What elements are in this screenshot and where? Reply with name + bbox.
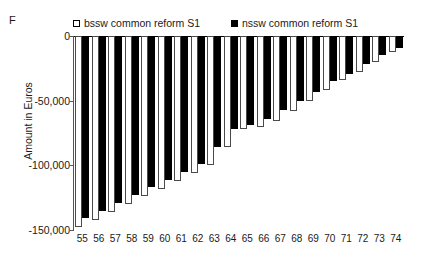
filled-square-icon — [231, 20, 238, 27]
x-tick-label: 58 — [124, 233, 141, 245]
bar-group — [125, 36, 139, 230]
legend-label-bssw: bssw common reform S1 — [84, 17, 200, 29]
bar-group — [356, 36, 370, 230]
x-tick-label: 70 — [322, 233, 339, 245]
chart-legend: bssw common reform S1 nssw common reform… — [73, 17, 403, 31]
x-tick-label: 69 — [305, 233, 322, 245]
bar-group — [141, 36, 155, 230]
x-tick-label: 60 — [157, 233, 174, 245]
bar-bssw-55 — [75, 36, 82, 227]
x-tick-label: 66 — [256, 233, 273, 245]
bar-nssw-72 — [363, 36, 370, 64]
x-tick-label: 61 — [173, 233, 190, 245]
bar-nssw-57 — [115, 36, 122, 203]
bar-group — [273, 36, 287, 230]
x-axis-ticks: 5556575859606162636465666768697071727374 — [74, 233, 404, 247]
bar-bssw-73 — [372, 36, 379, 62]
x-tick-label: 74 — [388, 233, 405, 245]
legend-entry-nssw: nssw common reform S1 — [231, 17, 358, 29]
bar-group — [323, 36, 337, 230]
bar-group — [92, 36, 106, 230]
bar-group — [339, 36, 353, 230]
x-tick-label: 71 — [338, 233, 355, 245]
bar-bssw-62 — [191, 36, 198, 173]
y-tick-label: -100,000 — [29, 159, 70, 171]
bar-nssw-74 — [396, 36, 403, 48]
bar-nssw-69 — [313, 36, 320, 92]
bar-group — [372, 36, 386, 230]
bar-group — [191, 36, 205, 230]
bar-bssw-64 — [224, 36, 231, 147]
bar-nssw-73 — [379, 36, 386, 55]
bar-nssw-66 — [264, 36, 271, 119]
bar-group — [108, 36, 122, 230]
chart-figure: F bssw common reform S1 nssw common refo… — [0, 0, 422, 263]
bar-bssw-65 — [240, 36, 247, 129]
bar-group — [207, 36, 221, 230]
x-tick-label: 67 — [272, 233, 289, 245]
bar-series-container — [74, 36, 404, 230]
bar-bssw-58 — [125, 36, 132, 204]
bar-nssw-56 — [99, 36, 106, 211]
x-tick-label: 73 — [371, 233, 388, 245]
panel-letter: F — [9, 14, 16, 26]
bar-nssw-58 — [132, 36, 139, 195]
bar-group — [75, 36, 89, 230]
bar-nssw-59 — [148, 36, 155, 187]
bar-group — [240, 36, 254, 230]
bar-nssw-68 — [297, 36, 304, 101]
x-tick-label: 55 — [74, 233, 91, 245]
bar-bssw-69 — [306, 36, 313, 101]
x-tick-label: 72 — [355, 233, 372, 245]
bar-bssw-66 — [257, 36, 264, 127]
bar-nssw-67 — [280, 36, 287, 110]
bar-bssw-59 — [141, 36, 148, 196]
x-tick-label: 59 — [140, 233, 157, 245]
x-tick-label: 64 — [223, 233, 240, 245]
y-tick-mark — [70, 230, 74, 231]
bar-bssw-70 — [323, 36, 330, 90]
bar-bssw-71 — [339, 36, 346, 80]
bar-bssw-56 — [92, 36, 99, 220]
bar-nssw-71 — [346, 36, 353, 74]
x-tick-label: 65 — [239, 233, 256, 245]
bar-group — [389, 36, 403, 230]
bar-nssw-65 — [247, 36, 254, 125]
bar-nssw-61 — [181, 36, 188, 172]
bar-bssw-57 — [108, 36, 115, 212]
bar-bssw-74 — [389, 36, 396, 52]
bar-nssw-55 — [82, 36, 89, 218]
bar-bssw-67 — [273, 36, 280, 121]
legend-entry-bssw: bssw common reform S1 — [73, 17, 200, 29]
x-tick-label: 63 — [206, 233, 223, 245]
x-tick-label: 62 — [190, 233, 207, 245]
y-axis-title: Amount in Euros — [22, 46, 34, 196]
plot-area: 0-50,000-100,000-150,000 — [74, 36, 404, 230]
bar-bssw-72 — [356, 36, 363, 72]
bar-nssw-62 — [198, 36, 205, 164]
bar-bssw-68 — [290, 36, 297, 111]
open-square-icon — [73, 20, 80, 27]
bar-group — [224, 36, 238, 230]
bar-group — [306, 36, 320, 230]
bar-bssw-60 — [158, 36, 165, 189]
y-tick-label: -150,000 — [29, 224, 70, 236]
bar-bssw-63 — [207, 36, 214, 165]
bar-nssw-60 — [165, 36, 172, 180]
x-tick-label: 56 — [91, 233, 108, 245]
bar-nssw-70 — [330, 36, 337, 81]
y-tick-label: -50,000 — [34, 95, 70, 107]
bar-group — [158, 36, 172, 230]
x-tick-label: 68 — [289, 233, 306, 245]
bar-bssw-61 — [174, 36, 181, 181]
bar-group — [174, 36, 188, 230]
x-tick-label: 57 — [107, 233, 124, 245]
bar-nssw-64 — [231, 36, 238, 129]
bar-group — [257, 36, 271, 230]
bar-nssw-63 — [214, 36, 221, 147]
bar-group — [290, 36, 304, 230]
legend-label-nssw: nssw common reform S1 — [242, 17, 358, 29]
